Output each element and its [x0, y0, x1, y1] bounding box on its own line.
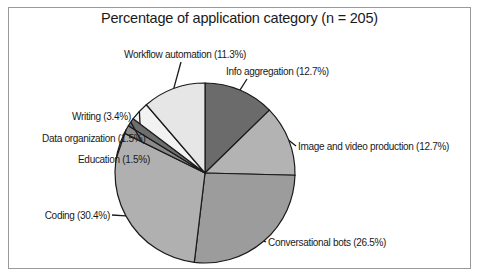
slice-label: Coding (30.4%)	[45, 210, 110, 221]
slice-label: Writing (3.4%)	[72, 111, 131, 122]
leader-line	[139, 111, 140, 124]
slice-label: Image and video production (12.7%)	[298, 141, 449, 152]
leader-line	[264, 241, 266, 242]
slice-label: Info aggregation (12.7%)	[226, 66, 329, 77]
slice-label: Data organization (1.5%)	[42, 133, 145, 144]
pie-chart: Info aggregation (12.7%)Image and video …	[0, 0, 479, 278]
slice-label: Conversational bots (26.5%)	[268, 237, 386, 248]
pie-slices	[115, 83, 295, 263]
pie-slice-conversational-bots	[194, 173, 295, 263]
leader-line	[174, 62, 181, 89]
leader-line	[240, 79, 247, 90]
leader-line	[112, 215, 126, 216]
slice-label: Workflow automation (11.3%)	[124, 49, 246, 60]
slice-label: Education (1.5%)	[78, 154, 150, 165]
